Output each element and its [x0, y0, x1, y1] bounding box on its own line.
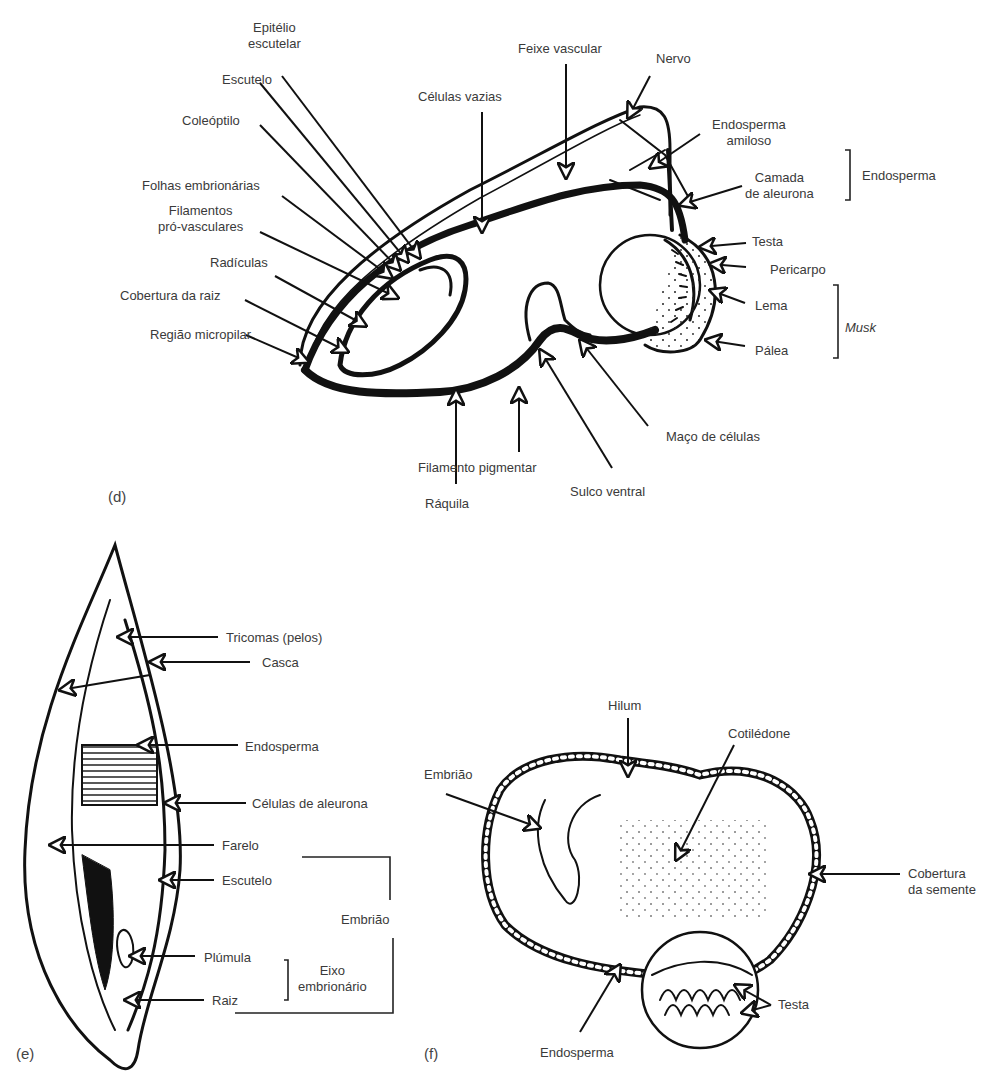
label-tricomas: Tricomas (pelos) [226, 630, 322, 646]
label-cobertura-da-raiz: Cobertura da raiz [120, 288, 220, 304]
label-endosperma-amiloso: Endosperma amiloso [712, 117, 786, 149]
label-cobertura-da-semente: Cobertura da semente [908, 866, 976, 898]
group-label-eixo-embrionario: Eixo embrionário [298, 963, 367, 995]
label-sulco-ventral: Sulco ventral [570, 484, 645, 500]
label-radiculas: Radículas [210, 255, 268, 271]
label-escutelo: Escutelo [222, 72, 272, 88]
label-celulas-de-aleurona: Células de aleurona [252, 796, 368, 812]
label-endosperma-e: Endosperma [245, 739, 319, 755]
label-nervo: Nervo [656, 51, 691, 67]
label-testa-d: Testa [752, 234, 783, 250]
label-filamento-pigmentar: Filamento pigmentar [418, 460, 537, 476]
label-epitelio-escutelar: Epitélio escutelar [248, 20, 301, 52]
group-label-musk: Musk [845, 320, 876, 336]
panel-letter-e: (e) [16, 1045, 34, 1062]
label-feixe-vascular: Feixe vascular [518, 41, 602, 57]
label-palea: Pálea [755, 343, 788, 359]
label-coleoptilo: Coleóptilo [182, 113, 240, 129]
label-folhas-embrionarias: Folhas embrionárias [142, 178, 260, 194]
label-raiz: Raiz [212, 993, 238, 1009]
label-camada-aleurona: Camada de aleurona [745, 170, 814, 202]
label-regiao-micropilar: Região micropilar [150, 327, 251, 343]
label-lema: Lema [755, 298, 788, 314]
label-plumula: Plúmula [204, 950, 251, 966]
label-celulas-vazias: Células vazias [418, 89, 502, 105]
label-embriao-f: Embrião [424, 767, 472, 783]
group-label-endosperma: Endosperma [862, 168, 936, 184]
panel-f-seed [486, 756, 817, 1048]
label-testa-f: Testa [778, 997, 809, 1013]
panel-letter-d: (d) [108, 488, 126, 505]
panel-e-seed [25, 545, 181, 1069]
label-casca: Casca [262, 655, 299, 671]
label-raquila: Ráquila [425, 496, 469, 512]
label-endosperma-f: Endosperma [540, 1045, 614, 1061]
panel-letter-f: (f) [424, 1045, 438, 1062]
label-hilum: Hilum [608, 698, 641, 714]
label-farelo: Farelo [222, 838, 259, 854]
label-maco-de-celulas: Maço de células [666, 429, 760, 445]
panel-d-grain [300, 107, 715, 394]
label-cotiledone: Cotilédone [728, 726, 790, 742]
label-pericarpo: Pericarpo [770, 262, 826, 278]
label-escutelo-e: Escutelo [222, 873, 272, 889]
diagram-artwork [0, 0, 1004, 1082]
label-filamentos-pro-vasculares: Filamentos pró-vasculares [158, 203, 243, 235]
group-label-embriao: Embrião [341, 912, 389, 928]
